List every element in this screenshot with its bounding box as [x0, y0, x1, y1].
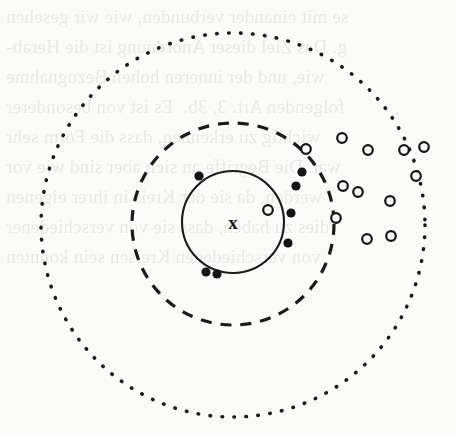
- filled-circle-marker: [297, 167, 306, 176]
- filled-circle-marker: [286, 208, 295, 217]
- open-circle-marker: [331, 213, 341, 223]
- open-circle-marker: [338, 181, 348, 191]
- open-circle-marker: [353, 187, 363, 197]
- open-circle-marker: [419, 142, 429, 152]
- open-circle-marker: [301, 144, 311, 154]
- open-circle-marker: [399, 145, 409, 155]
- center-marker-group: x: [228, 212, 238, 233]
- open-circle-marker: [362, 234, 372, 244]
- filled-circle-marker: [283, 238, 292, 247]
- center-x-icon: x: [228, 212, 238, 233]
- open-circle-marker: [411, 171, 421, 181]
- filled-circle-marker: [194, 171, 203, 180]
- figure-root: se mit einander verbunden, wie wir geseh…: [0, 0, 456, 437]
- filled-circle-marker: [212, 269, 221, 278]
- open-circle-marker: [386, 231, 396, 241]
- open-circle-marker: [263, 205, 273, 215]
- scatter-plot-canvas: x: [0, 0, 456, 437]
- open-circle-marker: [337, 133, 347, 143]
- filled-circle-marker: [201, 267, 210, 276]
- open-circle-marker: [385, 196, 395, 206]
- filled-circle-marker: [291, 181, 300, 190]
- data-markers-group: [194, 133, 428, 278]
- open-circle-marker: [363, 145, 373, 155]
